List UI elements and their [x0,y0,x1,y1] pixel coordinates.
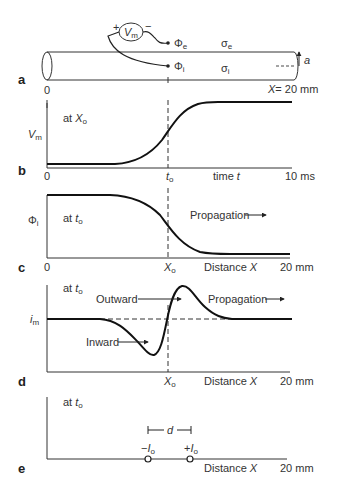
b-annotation: at Xo [63,112,88,126]
panel-a-x-start: 0 [44,84,50,96]
phi-i-label: Φi [174,60,185,74]
d-xlabel: Distance X [204,375,258,387]
positive-source-marker [187,456,193,462]
sigma-e-label: σe [221,37,233,51]
wire-to-phi-e [143,32,168,44]
panel-label-d: d [18,374,26,389]
phi-e-label: Φe [174,37,188,51]
panel-label-e: e [18,461,25,476]
inward-label: Inward [86,336,119,348]
voltmeter-minus: − [145,20,151,32]
phi-i-electrode [166,64,170,68]
voltmeter-plus: + [113,21,119,33]
d-ylabel: im [30,313,39,327]
panel-label-a: a [18,72,26,87]
e-xmax: 20 mm [280,462,314,474]
panel-a-cable [42,23,299,83]
b-x0: 0 [44,170,50,182]
d-propagation-label: Propagation [208,293,267,305]
b-xlabel: time t [213,170,241,182]
d-annotation: at to [63,282,83,296]
c-xo-marker: Xo [163,261,176,275]
c-xmax: 20 mm [280,261,314,273]
d-xo-marker: Xo [163,375,176,389]
panel-a-x-end: X= 20 mm [267,83,318,95]
panel-label-c: c [18,260,25,275]
cable-left-end [42,52,52,80]
outward-label: Outward [96,293,138,305]
c-ylabel: Φi [28,214,39,228]
panel-label-b: b [18,163,26,178]
b-xmax: 10 ms [285,170,315,182]
b-vm-curve [47,102,292,164]
dipole-distance-label: d [167,424,174,436]
d-xmax: 20 mm [280,375,314,387]
e-annotation: at to [63,396,83,410]
panel-b-vm-plot [47,102,292,168]
negative-source-label: −Io [141,442,156,456]
c-x0: 0 [44,261,50,273]
sigma-i-label: σi [221,62,230,76]
c-annotation: at to [63,212,83,226]
e-xlabel: Distance X [204,462,258,474]
b-ylabel: Vm [28,128,42,142]
c-xlabel: Distance X [204,261,258,273]
phi-e-electrode [166,41,170,45]
negative-source-marker [145,456,151,462]
positive-source-label: +Io [184,442,199,456]
b-to-marker: to [166,170,174,184]
c-propagation-label: Propagation [190,209,249,221]
figure: a 0 X= 20 mm a + − Vm Φe Φi σe σi b Vm a… [0,0,337,499]
radius-label: a [304,54,310,66]
